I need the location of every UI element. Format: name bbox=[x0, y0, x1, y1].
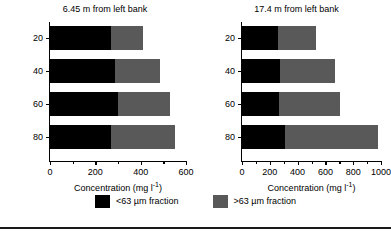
panel-right-title: 17.4 m from left bank bbox=[196, 4, 391, 15]
x-axis-tick-label: 200 bbox=[88, 167, 103, 177]
x-axis-tick bbox=[186, 161, 187, 165]
legend-swatch-fine-icon bbox=[95, 195, 110, 208]
x-axis-tick bbox=[298, 161, 299, 165]
panel-right-bank-17-4m: 17.4 m from left bank Concentration (mg … bbox=[196, 0, 391, 186]
bar-row bbox=[50, 125, 186, 149]
y-axis-tick bbox=[46, 71, 50, 72]
x-axis-minor-tick bbox=[73, 161, 74, 164]
plot-area-left: Concentration (mg l-1) 20406080020040060… bbox=[49, 22, 186, 162]
x-axis-tick-label: 800 bbox=[346, 167, 361, 177]
panel-left-bank-6-45m: 6.45 m from left bank Depth (%) Concentr… bbox=[0, 0, 196, 186]
x-axis-tick bbox=[141, 161, 142, 165]
x-axis-tick bbox=[353, 161, 354, 165]
x-axis-tick bbox=[270, 161, 271, 165]
y-axis-tick-label: 20 bbox=[33, 33, 43, 43]
bars-container-right bbox=[242, 22, 381, 161]
x-axis-tick-label: 1000 bbox=[371, 167, 391, 177]
plot-area-right: Concentration (mg l-1) 20406080020040060… bbox=[241, 22, 381, 162]
legend-label-coarse: >63 µm fraction bbox=[234, 196, 296, 206]
y-axis-tick bbox=[238, 71, 242, 72]
bar-segment-fine bbox=[50, 59, 115, 83]
y-axis-tick-label: 20 bbox=[225, 33, 235, 43]
bar-segment-fine bbox=[242, 92, 279, 116]
x-axis-tick-label: 400 bbox=[133, 167, 148, 177]
x-axis-minor-tick bbox=[118, 161, 119, 164]
y-axis-tick-label: 80 bbox=[225, 132, 235, 142]
bar-row bbox=[242, 125, 381, 149]
bar-segment-coarse bbox=[280, 59, 336, 83]
legend-item-coarse-fraction: >63 µm fraction bbox=[213, 195, 296, 208]
panels-container: 6.45 m from left bank Depth (%) Concentr… bbox=[0, 0, 391, 186]
bar-segment-fine bbox=[242, 59, 280, 83]
bar-segment-coarse bbox=[118, 92, 170, 116]
bar-segment-coarse bbox=[278, 26, 316, 50]
x-axis-minor-tick bbox=[312, 161, 313, 164]
x-axis-tick-label: 200 bbox=[262, 167, 277, 177]
y-axis-tick-label: 60 bbox=[33, 99, 43, 109]
y-axis-tick bbox=[238, 137, 242, 138]
bottom-divider bbox=[0, 227, 391, 229]
bar-row bbox=[242, 59, 381, 83]
y-axis-tick-label: 40 bbox=[33, 66, 43, 76]
bar-segment-coarse bbox=[285, 125, 377, 149]
bar-row bbox=[50, 26, 186, 50]
x-axis-minor-tick bbox=[284, 161, 285, 164]
y-axis-tick bbox=[238, 104, 242, 105]
bar-segment-fine bbox=[242, 26, 278, 50]
bar-segment-coarse bbox=[115, 59, 160, 83]
panel-left-title: 6.45 m from left bank bbox=[0, 4, 196, 15]
x-axis-tick bbox=[325, 161, 326, 165]
bar-row bbox=[50, 59, 186, 83]
chart-legend: <63 µm fraction >63 µm fraction bbox=[0, 190, 391, 212]
x-axis-minor-tick bbox=[163, 161, 164, 164]
legend-label-fine: <63 µm fraction bbox=[116, 196, 178, 206]
bar-row bbox=[242, 26, 381, 50]
x-axis-tick bbox=[95, 161, 96, 165]
bar-row bbox=[50, 92, 186, 116]
x-axis-tick bbox=[242, 161, 243, 165]
bar-segment-coarse bbox=[279, 92, 340, 116]
y-axis-tick bbox=[46, 104, 50, 105]
x-axis-tick-label: 600 bbox=[178, 167, 193, 177]
x-axis-tick-label: 400 bbox=[290, 167, 305, 177]
bars-container-left bbox=[50, 22, 186, 161]
bar-segment-fine bbox=[50, 125, 111, 149]
y-axis-tick-label: 40 bbox=[225, 66, 235, 76]
bar-segment-coarse bbox=[111, 26, 143, 50]
legend-swatch-coarse-icon bbox=[213, 195, 228, 208]
y-axis-tick bbox=[238, 38, 242, 39]
legend-item-fine-fraction: <63 µm fraction bbox=[95, 195, 178, 208]
bar-row bbox=[242, 92, 381, 116]
x-axis-tick-label: 0 bbox=[47, 167, 52, 177]
bar-segment-fine bbox=[50, 92, 118, 116]
x-axis-tick bbox=[381, 161, 382, 165]
bar-segment-coarse bbox=[111, 125, 174, 149]
x-axis-tick-label: 0 bbox=[239, 167, 244, 177]
bar-segment-fine bbox=[242, 125, 285, 149]
figure-stacked-bar-charts: 6.45 m from left bank Depth (%) Concentr… bbox=[0, 0, 391, 241]
y-axis-tick bbox=[46, 38, 50, 39]
bar-segment-fine bbox=[50, 26, 111, 50]
y-axis-tick bbox=[46, 137, 50, 138]
x-axis-minor-tick bbox=[339, 161, 340, 164]
x-axis-tick-label: 600 bbox=[318, 167, 333, 177]
x-axis-tick bbox=[50, 161, 51, 165]
x-axis-minor-tick bbox=[367, 161, 368, 164]
y-axis-tick-label: 80 bbox=[33, 132, 43, 142]
x-axis-minor-tick bbox=[256, 161, 257, 164]
y-axis-tick-label: 60 bbox=[225, 99, 235, 109]
